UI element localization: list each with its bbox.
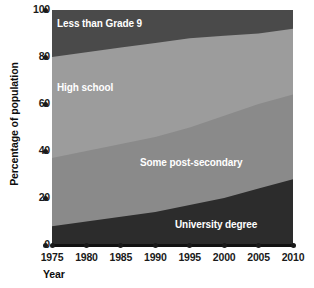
- y-tick-label: 0: [16, 238, 50, 250]
- x-tick-dot: [153, 243, 158, 248]
- x-tick-dot: [256, 243, 261, 248]
- y-tick-label: 80: [16, 50, 50, 62]
- y-axis-title: Percentage of population: [8, 44, 20, 204]
- plot-area: [52, 10, 293, 245]
- y-tick-label: 20: [16, 191, 50, 203]
- x-tick-dot: [118, 243, 123, 248]
- x-tick-label: 2010: [273, 251, 313, 263]
- y-tick-label: 40: [16, 144, 50, 156]
- stacked-area-svg: [52, 10, 293, 245]
- x-tick-dot: [222, 243, 227, 248]
- chart-figure: Less than Grade 9 High school Some post-…: [0, 0, 314, 288]
- x-tick-dot: [50, 243, 55, 248]
- y-tick-label: 100: [16, 3, 50, 15]
- y-tick-label: 60: [16, 97, 50, 109]
- x-tick-dot: [187, 243, 192, 248]
- x-axis-title: Year: [43, 268, 65, 280]
- x-tick-dot: [291, 243, 296, 248]
- x-tick-dot: [84, 243, 89, 248]
